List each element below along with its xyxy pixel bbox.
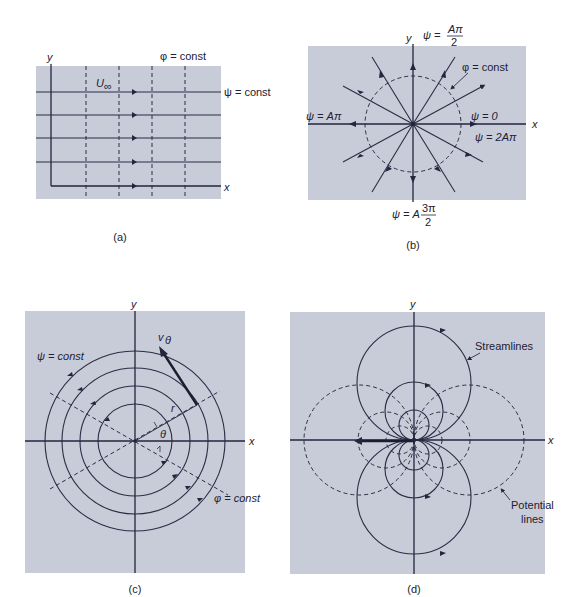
panel-d-potential-label-2: lines <box>521 513 544 525</box>
panel-b-line-source: y x ψ = Aπ 2 ψ = Aπ ψ = 0 ψ = 2Aπ φ = co… <box>306 23 538 251</box>
panel-a-caption: (a) <box>113 231 126 243</box>
panel-a-background <box>36 66 221 199</box>
panel-d-doublet-center <box>412 438 416 442</box>
panel-a-stream-label: ψ = const <box>224 86 271 98</box>
panel-c-x-label: x <box>248 435 255 447</box>
panel-b-potential-label: φ = const <box>462 61 508 73</box>
panel-b-left-label: ψ = Aπ <box>306 110 342 122</box>
panel-c-y-label: y <box>130 298 138 310</box>
panel-a-potential-label: φ = const <box>160 50 206 62</box>
panel-d-caption: (d) <box>407 583 420 595</box>
panel-c-potential-label: φ = const <box>214 492 261 504</box>
panel-c-line-vortex: y x ψ = const φ = const v θ r θ (c) <box>25 298 261 595</box>
panel-b-bottom-prefix: ψ = A <box>392 208 420 220</box>
panel-c-caption: (c) <box>129 583 142 595</box>
panel-a-velocity-label: U <box>96 77 104 89</box>
panel-b-right-lower-label: ψ = 2Aπ <box>475 131 517 143</box>
panel-b-top-num: Aπ <box>447 23 463 35</box>
panel-c-velocity-sub: θ <box>165 334 171 346</box>
panel-d-y-label: y <box>409 298 417 310</box>
panel-b-top-prefix: ψ = <box>423 29 441 41</box>
panel-c-vortex-center <box>133 439 137 443</box>
panel-b-bottom-den: 2 <box>425 216 431 228</box>
panel-b-x-label: x <box>531 118 538 130</box>
panel-c-stream-label: ψ = const <box>37 350 85 362</box>
panel-b-top-den: 2 <box>451 36 457 48</box>
panel-d-doublet: y x Streamlines Potential lines (d) <box>290 298 554 595</box>
panel-d-x-label: x <box>547 434 554 446</box>
panel-b-caption: (b) <box>406 239 419 251</box>
panel-a-velocity-sub: ∞ <box>104 80 112 92</box>
panel-c-angle-label: θ <box>160 428 166 440</box>
panel-b-right-upper-label: ψ = 0 <box>471 110 499 122</box>
panel-d-streamlines-label: Streamlines <box>475 340 534 352</box>
figure-canvas: y x U ∞ φ = const ψ = const (a) <box>0 0 573 597</box>
panel-d-potential-label-1: Potential <box>511 499 554 511</box>
panel-a-x-label: x <box>223 181 230 193</box>
panel-a-y-label: y <box>46 51 54 63</box>
panel-b-y-label: y <box>405 32 413 44</box>
panel-a-uniform-flow: y x U ∞ φ = const ψ = const (a) <box>36 50 271 243</box>
panel-b-bottom-num: 3π <box>422 202 436 214</box>
panel-b-source-point <box>411 122 415 126</box>
